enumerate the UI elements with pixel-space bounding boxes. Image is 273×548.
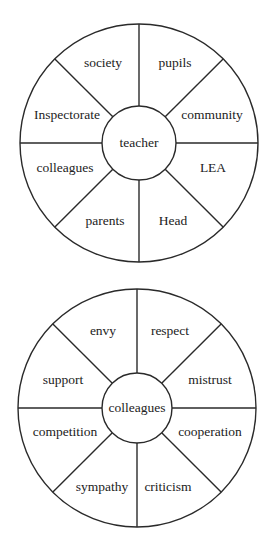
teacher-wheel-diagram: teacher society pupils community LEA Hea… (0, 0, 273, 274)
segment-label-sympathy: sympathy (76, 480, 129, 494)
segment-label-community: community (181, 108, 243, 122)
segment-label-pupils: pupils (158, 56, 191, 70)
segment-label-lea: LEA (200, 161, 226, 175)
segment-label-support: support (43, 373, 84, 387)
colleagues-wheel-diagram: colleagues envy respect mistrust coopera… (0, 265, 273, 539)
segment-label-society: society (84, 56, 122, 70)
segment-label-head: Head (159, 214, 187, 228)
segment-label-envy: envy (90, 324, 116, 338)
segment-label-colleagues: colleagues (37, 161, 94, 175)
segment-label-inspectorate: Inspectorate (34, 108, 100, 122)
segment-label-criticism: criticism (144, 480, 191, 494)
segment-label-mistrust: mistrust (188, 373, 232, 387)
segment-label-competition: competition (33, 425, 98, 439)
hub-label: colleagues (109, 401, 166, 415)
segment-label-respect: respect (151, 324, 189, 338)
segment-label-cooperation: cooperation (178, 425, 242, 439)
hub-label: teacher (120, 136, 159, 150)
segment-label-parents: parents (86, 214, 125, 228)
